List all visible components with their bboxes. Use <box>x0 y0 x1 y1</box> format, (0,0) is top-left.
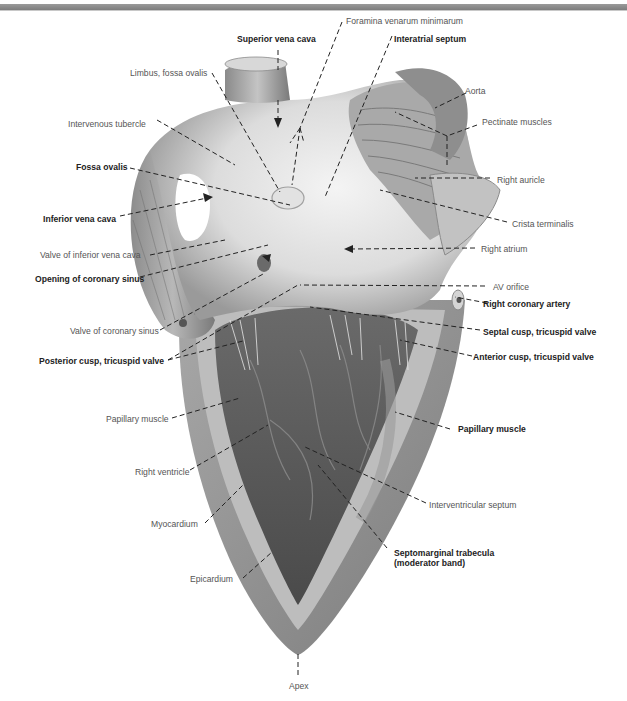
label-fossa-ovalis: Fossa ovalis <box>76 162 128 172</box>
label-interatrial-septum: Interatrial septum <box>394 34 466 44</box>
label-right-auricle: Right auricle <box>497 175 545 185</box>
label-interventricular-septum: Interventricular septum <box>429 500 516 510</box>
label-papillary-muscle-right: Papillary muscle <box>458 424 526 434</box>
label-aorta: Aorta <box>465 86 486 96</box>
label-right-atrium: Right atrium <box>481 244 527 254</box>
label-epicardium: Epicardium <box>190 574 233 584</box>
label-anterior-cusp-tricuspid-valve: Anterior cusp, tricuspid valve <box>473 352 594 362</box>
label-valve-of-inferior-vena-cava: Valve of inferior vena cava <box>40 250 141 260</box>
label-opening-of-coronary-sinus: Opening of coronary sinus <box>35 274 144 284</box>
label-intervenous-tubercle: Intervenous tubercle <box>68 119 146 129</box>
label-papillary-muscle-left: Papillary muscle <box>106 414 169 424</box>
label-septal-cusp-tricuspid-valve: Septal cusp, tricuspid valve <box>483 327 596 337</box>
label-limbus-fossa-ovalis: Limbus, fossa ovalis <box>130 68 207 78</box>
label-valve-of-coronary-sinus: Valve of coronary sinus <box>70 326 159 336</box>
label-foramina-venarum-minimarum: Foramina venarum minimarum <box>346 16 463 26</box>
label-right-coronary-artery: Right coronary artery <box>483 299 570 309</box>
label-right-ventricle: Right ventricle <box>135 467 189 477</box>
label-posterior-cusp-tricuspid-valve: Posterior cusp, tricuspid valve <box>39 356 164 366</box>
label-av-orifice: AV orifice <box>493 282 529 292</box>
label-myocardium: Myocardium <box>151 519 198 529</box>
heart-illustration <box>0 0 627 701</box>
label-inferior-vena-cava: Inferior vena cava <box>43 214 116 224</box>
label-pectinate-muscles: Pectinate muscles <box>482 117 552 127</box>
label-septomarginal-trabecula: Septomarginal trabecula (moderator band) <box>394 548 494 568</box>
label-superior-vena-cava: Superior vena cava <box>237 34 316 44</box>
label-crista-terminalis: Crista terminalis <box>512 219 574 229</box>
label-apex: Apex <box>289 681 309 691</box>
